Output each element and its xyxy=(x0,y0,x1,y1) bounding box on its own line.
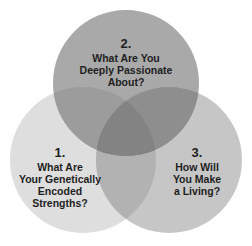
label-line: Deeply Passionate xyxy=(76,64,176,76)
label-line: What Are You xyxy=(76,52,176,64)
label-line: Encoded xyxy=(15,185,105,197)
label-line: Your Genetically xyxy=(15,173,105,185)
label-living: 3. How Will You Make a Living? xyxy=(162,145,232,197)
label-number: 2. xyxy=(76,36,176,51)
label-strengths: 1. What Are Your Genetically Encoded Str… xyxy=(15,145,105,209)
label-number: 1. xyxy=(15,145,105,160)
label-line: a Living? xyxy=(162,185,232,197)
label-number: 3. xyxy=(162,145,232,160)
label-line: What Are xyxy=(15,161,105,173)
label-line: About? xyxy=(76,76,176,88)
label-line: You Make xyxy=(162,173,232,185)
label-line: How Will xyxy=(162,161,232,173)
label-line: Strengths? xyxy=(15,197,105,209)
label-passion: 2. What Are You Deeply Passionate About? xyxy=(76,36,176,88)
